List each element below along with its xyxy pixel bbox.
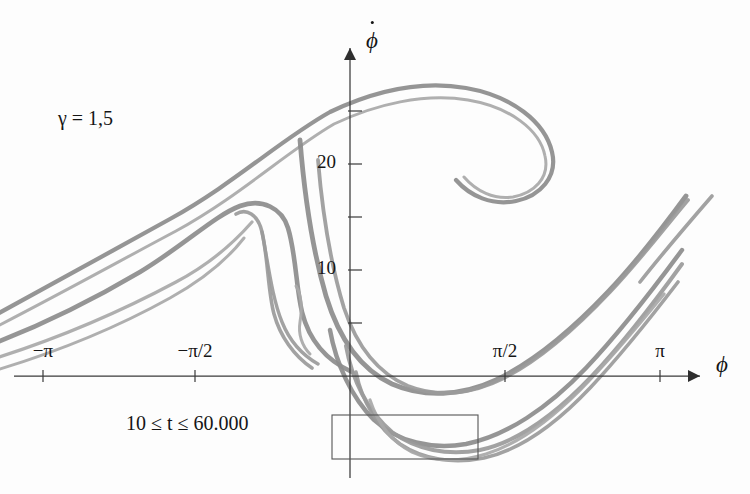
gamma-annotation-text: γ = 1,5 — [58, 107, 113, 129]
x-tick-label-4: π — [638, 340, 682, 362]
y-tick-label-3: 20 — [290, 151, 336, 173]
time-range-annotation: 10 ≤ t ≤ 60.000 — [126, 412, 249, 435]
x-tick-label-1: −π/2 — [173, 340, 217, 362]
x-axis-arrow-icon — [688, 370, 700, 382]
y-axis-label: ϕ — [366, 28, 378, 54]
y-axis-arrow-icon — [344, 48, 356, 60]
x-axis-label-text: ϕ — [716, 352, 728, 377]
time-range-text: 10 ≤ t ≤ 60.000 — [126, 412, 249, 434]
phase-space-figure: γ = 1,5 10 ≤ t ≤ 60.000 ϕ ϕ −π−π/2π/2π 1… — [0, 0, 750, 494]
x-axis-label: ϕ — [716, 352, 728, 378]
attractor-plot-svg — [0, 0, 750, 494]
x-tick-label-0: −π — [21, 340, 65, 362]
y-tick-label-1: 10 — [290, 257, 336, 279]
attractor-curves — [0, 85, 712, 460]
x-tick-label-3: π/2 — [483, 340, 527, 362]
phi-dot-overdot-icon — [371, 21, 374, 24]
gamma-annotation: γ = 1,5 — [58, 107, 113, 130]
y-axis-label-text: ϕ — [366, 28, 378, 53]
